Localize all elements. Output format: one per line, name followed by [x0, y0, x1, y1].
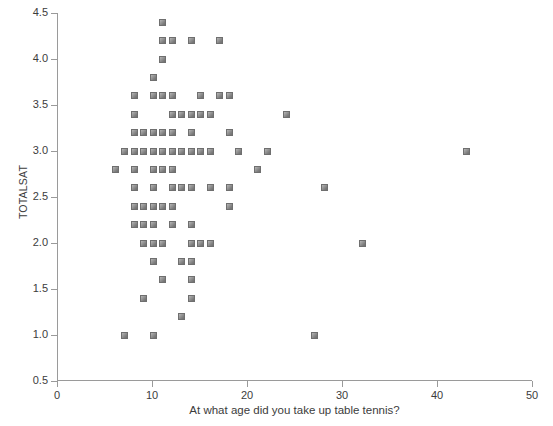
- x-tick-mark: [342, 381, 343, 387]
- data-point: [188, 129, 195, 136]
- y-tick-label: 4.0: [12, 52, 48, 64]
- y-tick-mark: [51, 197, 57, 198]
- data-point: [140, 295, 147, 302]
- data-point: [159, 19, 166, 26]
- data-point: [207, 240, 214, 247]
- data-point: [121, 148, 128, 155]
- data-point: [131, 203, 138, 210]
- data-point: [159, 37, 166, 44]
- y-tick-label: 0.5: [12, 374, 48, 386]
- data-point: [188, 37, 195, 44]
- data-point: [159, 56, 166, 63]
- data-point: [169, 184, 176, 191]
- data-point: [226, 184, 233, 191]
- data-point: [131, 221, 138, 228]
- data-point: [140, 240, 147, 247]
- data-point: [207, 184, 214, 191]
- data-point: [140, 203, 147, 210]
- data-point: [150, 184, 157, 191]
- data-point: [159, 276, 166, 283]
- data-point: [178, 148, 185, 155]
- data-point: [463, 148, 470, 155]
- data-point: [150, 166, 157, 173]
- scatter-chart: 0.51.01.52.02.53.03.54.04.5 01020304050 …: [0, 0, 553, 426]
- y-tick-mark: [51, 335, 57, 336]
- y-tick-mark: [51, 59, 57, 60]
- data-point: [169, 203, 176, 210]
- data-point: [169, 221, 176, 228]
- y-tick-label: 4.5: [12, 6, 48, 18]
- data-point: [169, 148, 176, 155]
- data-point: [169, 37, 176, 44]
- data-point: [188, 295, 195, 302]
- data-point: [150, 92, 157, 99]
- data-point: [264, 148, 271, 155]
- y-tick-mark: [51, 13, 57, 14]
- data-point: [159, 203, 166, 210]
- x-tick-label: 0: [54, 389, 60, 401]
- y-tick-label: 1.0: [12, 328, 48, 340]
- y-tick-mark: [51, 243, 57, 244]
- x-tick-label: 30: [336, 389, 348, 401]
- data-point: [150, 148, 157, 155]
- data-point: [321, 184, 328, 191]
- data-point: [159, 240, 166, 247]
- data-point: [197, 148, 204, 155]
- data-point: [216, 92, 223, 99]
- data-point: [188, 240, 195, 247]
- x-tick-mark: [437, 381, 438, 387]
- y-tick-mark: [51, 151, 57, 152]
- data-point: [226, 92, 233, 99]
- data-point: [140, 129, 147, 136]
- data-point: [235, 148, 242, 155]
- data-point: [121, 332, 128, 339]
- y-tick-label: 1.5: [12, 282, 48, 294]
- data-point: [159, 92, 166, 99]
- data-point: [150, 74, 157, 81]
- data-point: [207, 111, 214, 118]
- x-tick-mark: [152, 381, 153, 387]
- data-point: [150, 240, 157, 247]
- data-point: [150, 332, 157, 339]
- data-point: [150, 203, 157, 210]
- data-point: [188, 276, 195, 283]
- data-point: [197, 240, 204, 247]
- data-point: [131, 129, 138, 136]
- data-point: [311, 332, 318, 339]
- data-point: [178, 313, 185, 320]
- data-point: [150, 221, 157, 228]
- data-point: [283, 111, 290, 118]
- data-point: [131, 166, 138, 173]
- data-point: [140, 148, 147, 155]
- x-tick-mark: [532, 381, 533, 387]
- data-point: [159, 166, 166, 173]
- y-tick-mark: [51, 105, 57, 106]
- x-tick-mark: [247, 381, 248, 387]
- data-point: [178, 258, 185, 265]
- data-point: [112, 166, 119, 173]
- data-point: [359, 240, 366, 247]
- data-point: [140, 221, 147, 228]
- data-point: [188, 258, 195, 265]
- data-point: [131, 92, 138, 99]
- y-axis-title: TOTALSAT: [17, 137, 29, 247]
- x-tick-label: 10: [146, 389, 158, 401]
- x-tick-label: 40: [431, 389, 443, 401]
- data-point: [131, 184, 138, 191]
- data-point: [159, 129, 166, 136]
- data-point: [150, 129, 157, 136]
- data-point: [197, 92, 204, 99]
- data-point: [197, 111, 204, 118]
- x-tick-label: 20: [241, 389, 253, 401]
- data-point: [169, 92, 176, 99]
- data-point: [188, 111, 195, 118]
- data-point: [188, 184, 195, 191]
- data-point: [178, 111, 185, 118]
- x-tick-mark: [57, 381, 58, 387]
- y-tick-mark: [51, 289, 57, 290]
- data-point: [131, 111, 138, 118]
- data-point: [226, 129, 233, 136]
- data-point: [216, 37, 223, 44]
- data-point: [169, 166, 176, 173]
- data-point: [150, 258, 157, 265]
